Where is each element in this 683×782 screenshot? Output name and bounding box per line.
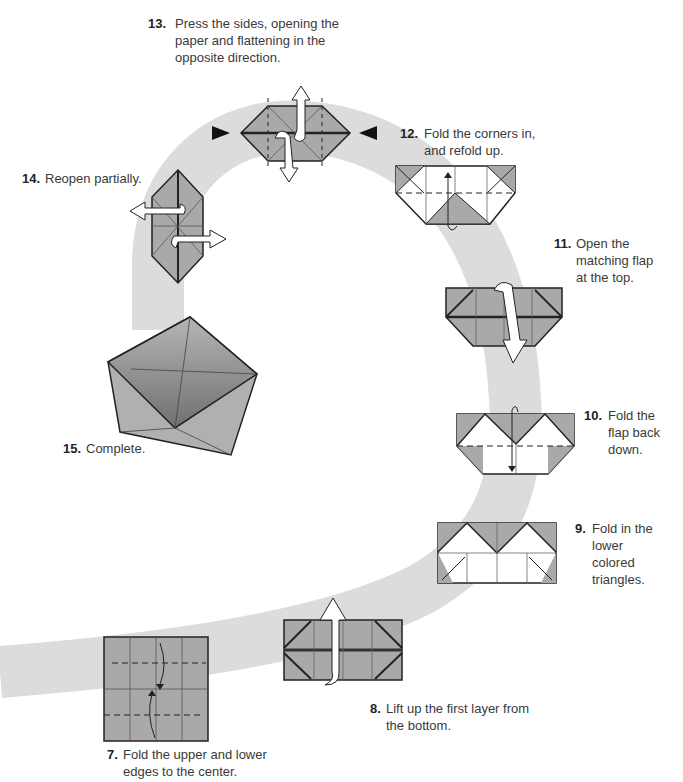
step-9-label: 9. Fold in the lower colored triangles. — [575, 520, 683, 588]
step-13-label: 13. Press the sides, opening the paper a… — [148, 15, 348, 66]
step-8-label: 8. Lift up the first layer from the bott… — [370, 700, 540, 734]
step-7-illustration — [104, 637, 208, 741]
step-10-label: 10. Fold the flap back down. — [584, 407, 683, 458]
step-7-label: 7. Fold the upper and lower edges to the… — [107, 746, 307, 780]
step-12-label: 12. Fold the corners in, and refold up. — [400, 125, 600, 159]
diagram-canvas — [0, 0, 683, 782]
step-9-illustration — [438, 523, 556, 583]
step-10-illustration — [457, 406, 574, 474]
step-11-label: 11. Open the matching flap at the top. — [554, 235, 683, 286]
step-14-label: 14. Reopen partially. — [22, 170, 172, 187]
step-15-label: 15. Complete. — [63, 440, 203, 457]
step-15-illustration — [108, 317, 257, 455]
step-12-illustration — [396, 166, 515, 230]
